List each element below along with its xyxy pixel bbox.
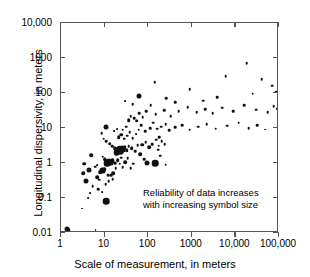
- data-point: [140, 124, 143, 127]
- x-tick-4: [234, 232, 235, 237]
- data-point: [130, 167, 133, 170]
- data-point: [152, 122, 155, 125]
- y-tick-right-1: [273, 197, 278, 198]
- data-point: [174, 101, 177, 104]
- y-tick-label-3: 10: [0, 122, 52, 133]
- figure-container: 110100100010,000100,0000.010.11101001000…: [0, 0, 310, 277]
- data-point: [100, 132, 103, 135]
- data-point: [202, 99, 205, 102]
- data-point: [135, 133, 137, 135]
- data-point: [163, 143, 166, 146]
- data-point: [186, 106, 189, 109]
- data-point: [97, 188, 100, 191]
- data-point: [84, 179, 89, 184]
- data-point: [87, 168, 92, 173]
- data-point: [165, 97, 168, 100]
- data-point: [101, 156, 104, 159]
- y-tick-label-6: 10,000: [0, 17, 52, 28]
- data-point: [168, 129, 171, 132]
- data-point: [145, 110, 148, 113]
- y-tick-3: [60, 127, 65, 128]
- data-point: [87, 197, 89, 199]
- data-point: [82, 162, 86, 166]
- y-tick-label-4: 100: [0, 87, 52, 98]
- data-point: [157, 145, 160, 148]
- data-point: [105, 140, 108, 143]
- data-point: [137, 144, 140, 147]
- data-point: [224, 75, 227, 78]
- data-point: [81, 171, 85, 175]
- x-tick-top-4: [234, 22, 235, 27]
- data-point: [157, 148, 160, 151]
- data-point: [91, 185, 94, 188]
- data-point: [120, 157, 123, 160]
- data-point: [119, 133, 123, 137]
- data-point: [150, 104, 153, 107]
- data-point: [164, 123, 167, 126]
- data-point: [95, 229, 97, 231]
- data-point: [131, 103, 134, 106]
- data-point: [211, 112, 214, 115]
- data-point: [245, 62, 248, 65]
- data-point: [137, 94, 142, 99]
- data-point: [116, 158, 120, 162]
- data-point: [260, 78, 263, 81]
- data-point: [189, 128, 192, 131]
- data-point: [116, 128, 118, 130]
- data-point: [140, 143, 144, 147]
- data-point: [137, 128, 140, 131]
- data-point: [152, 160, 159, 167]
- data-point: [144, 130, 147, 133]
- data-point: [112, 178, 115, 181]
- data-point: [147, 146, 151, 150]
- data-point: [104, 183, 107, 186]
- x-tick-top-3: [191, 22, 192, 27]
- y-tick-right-3: [273, 127, 278, 128]
- data-point: [103, 198, 110, 205]
- y-tick-right-5: [273, 57, 278, 58]
- y-tick-4: [60, 92, 65, 93]
- data-point: [271, 85, 274, 88]
- data-point: [102, 137, 105, 140]
- x-tick-label-4: 10,000: [219, 238, 250, 249]
- data-point: [276, 107, 277, 110]
- y-tick-1: [60, 197, 65, 198]
- data-point: [129, 131, 132, 134]
- y-tick-right-2: [273, 162, 278, 163]
- data-point: [272, 105, 275, 108]
- data-point: [96, 164, 98, 166]
- data-point: [158, 136, 161, 139]
- data-point: [94, 165, 97, 168]
- data-point: [204, 108, 207, 111]
- data-point: [134, 150, 137, 153]
- x-tick-label-3: 1000: [180, 238, 202, 249]
- y-tick-label-2: 1: [0, 157, 52, 168]
- data-point: [108, 142, 112, 146]
- data-point: [125, 149, 129, 153]
- reliability-annotation: Reliability of data increases with incre…: [143, 187, 259, 211]
- y-tick-right-6: [273, 22, 278, 23]
- data-point: [121, 128, 124, 131]
- data-point: [149, 127, 152, 130]
- data-point: [256, 124, 259, 127]
- x-tick-label-0: 1: [57, 238, 63, 249]
- data-point: [133, 117, 136, 120]
- data-point: [155, 139, 158, 142]
- data-point: [189, 88, 192, 91]
- x-tick-label-5: 100,000: [260, 238, 296, 249]
- data-point: [255, 109, 258, 112]
- y-axis-title: Longitudinal dispersivity, in meters: [32, 33, 44, 233]
- data-point: [132, 162, 135, 165]
- data-point: [81, 208, 83, 210]
- x-tick-top-2: [147, 22, 148, 27]
- annotation-line-1: Reliability of data increases: [143, 187, 259, 199]
- data-point: [197, 125, 200, 128]
- y-tick-right-4: [273, 92, 278, 93]
- data-point: [143, 158, 146, 161]
- data-point: [266, 111, 269, 114]
- data-point: [243, 104, 246, 107]
- data-point: [123, 137, 126, 140]
- x-tick-top-1: [104, 22, 105, 27]
- data-point: [114, 162, 117, 165]
- data-point: [164, 163, 167, 166]
